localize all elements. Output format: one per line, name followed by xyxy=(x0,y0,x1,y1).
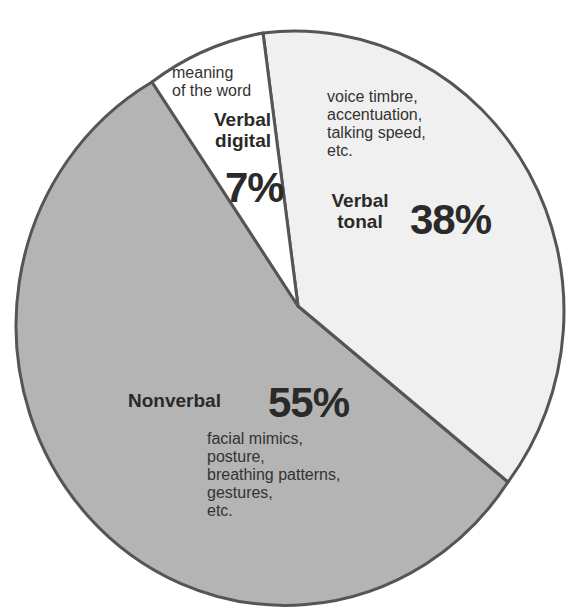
nonverbal-description: facial mimics, posture, breathing patter… xyxy=(207,430,340,520)
tonal-percent: 38% xyxy=(410,196,491,243)
tonal-name-line: tonal xyxy=(325,211,395,232)
digital-name-line: Verbal xyxy=(199,109,271,130)
digital-percent: 7% xyxy=(225,164,284,211)
tonal-desc-line: accentuation, xyxy=(327,106,426,124)
tonal-desc-line: talking speed, xyxy=(327,124,426,142)
nonverbal-desc-line: facial mimics, xyxy=(207,430,340,448)
nonverbal-desc-line: etc. xyxy=(207,502,340,520)
tonal-desc-line: etc. xyxy=(327,142,426,160)
nonverbal-name: Nonverbal xyxy=(128,390,221,411)
digital-description: meaning of the word xyxy=(172,64,251,100)
digital-name: Verbal digital xyxy=(199,109,271,152)
pie-chart xyxy=(0,0,587,614)
nonverbal-desc-line: breathing patterns, xyxy=(207,466,340,484)
digital-desc-line: meaning xyxy=(172,64,251,82)
tonal-desc-line: voice timbre, xyxy=(327,88,426,106)
nonverbal-desc-line: posture, xyxy=(207,448,340,466)
nonverbal-desc-line: gestures, xyxy=(207,484,340,502)
tonal-description: voice timbre, accentuation, talking spee… xyxy=(327,88,426,160)
digital-desc-line: of the word xyxy=(172,82,251,100)
nonverbal-percent: 55% xyxy=(268,379,349,426)
tonal-name: Verbal tonal xyxy=(325,190,395,233)
tonal-name-line: Verbal xyxy=(325,190,395,211)
digital-name-line: digital xyxy=(199,130,271,151)
